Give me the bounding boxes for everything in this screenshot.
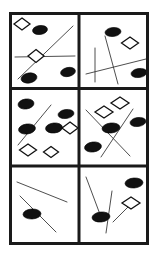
- figure-root: [0, 0, 157, 261]
- panel-background-bottom-left: [12, 167, 79, 243]
- six-panel-figure: [0, 0, 157, 261]
